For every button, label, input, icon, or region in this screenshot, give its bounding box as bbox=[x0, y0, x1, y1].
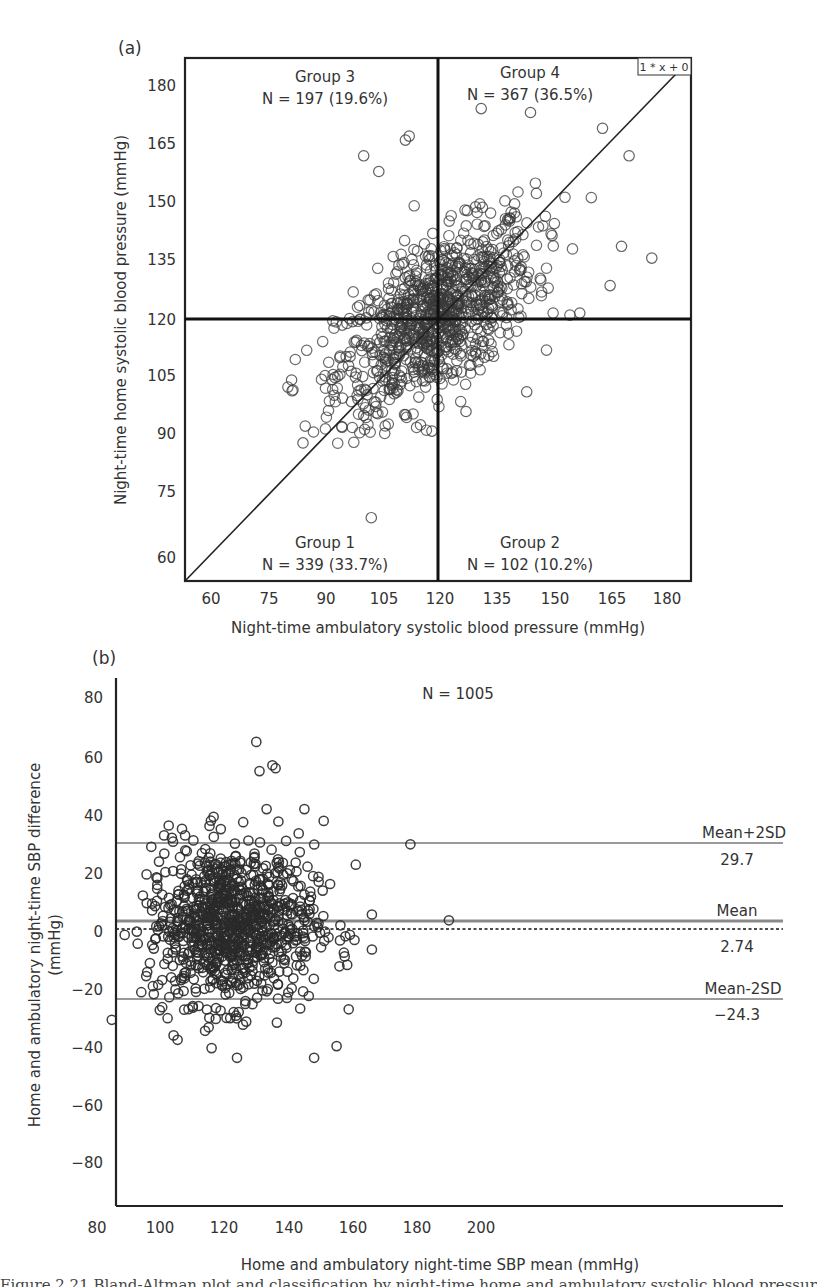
group-2-name: Group 2 bbox=[500, 534, 560, 552]
y-tick: 75 bbox=[157, 483, 176, 501]
data-point bbox=[605, 280, 615, 290]
data-point bbox=[295, 848, 304, 857]
data-point bbox=[324, 357, 334, 367]
group-3-count: N = 197 (19.6%) bbox=[262, 90, 388, 108]
data-point bbox=[142, 870, 151, 879]
data-point bbox=[209, 832, 218, 841]
y-tick: −20 bbox=[71, 981, 103, 999]
group-4-name: Group 4 bbox=[500, 64, 560, 82]
y-axis-label-b-line1: Home and ambulatory night-time SBP diffe… bbox=[26, 763, 44, 1128]
data-point bbox=[351, 860, 360, 869]
data-point bbox=[232, 1053, 241, 1062]
data-point bbox=[309, 872, 318, 881]
data-point bbox=[155, 1006, 164, 1015]
data-point bbox=[205, 821, 214, 830]
data-point bbox=[239, 818, 248, 827]
y-tick: 80 bbox=[84, 689, 103, 707]
x-tick: 90 bbox=[316, 590, 335, 608]
data-point bbox=[409, 244, 419, 254]
data-point bbox=[567, 244, 577, 254]
y-tick: 60 bbox=[157, 549, 176, 567]
data-point bbox=[476, 103, 486, 113]
data-point bbox=[137, 988, 146, 997]
data-point bbox=[253, 993, 262, 1002]
data-point bbox=[164, 821, 173, 830]
data-point bbox=[319, 816, 328, 825]
data-point bbox=[289, 974, 298, 983]
data-point bbox=[414, 392, 424, 402]
data-point bbox=[525, 107, 535, 117]
data-point bbox=[366, 513, 376, 523]
x-tick: 120 bbox=[210, 1219, 239, 1237]
data-point bbox=[530, 178, 540, 188]
scatter-points-a bbox=[283, 103, 657, 523]
data-point bbox=[310, 840, 319, 849]
x-tick: 160 bbox=[339, 1219, 368, 1237]
data-point bbox=[513, 187, 523, 197]
data-point bbox=[138, 891, 147, 900]
lower-limit-name: Mean-2SD bbox=[705, 980, 782, 998]
mean-value: 2.74 bbox=[720, 938, 753, 956]
identity-line bbox=[185, 74, 676, 581]
data-point bbox=[504, 340, 514, 350]
data-point bbox=[133, 939, 142, 948]
data-point bbox=[419, 239, 429, 249]
data-point bbox=[323, 405, 333, 415]
data-point bbox=[205, 1013, 214, 1022]
scatter-points-b bbox=[107, 737, 453, 1062]
data-point bbox=[318, 336, 328, 346]
data-point bbox=[409, 201, 419, 211]
data-point bbox=[294, 829, 303, 838]
data-point bbox=[308, 427, 318, 437]
upper-limit-name: Mean+2SD bbox=[702, 824, 786, 842]
data-point bbox=[359, 151, 369, 161]
y-tick: −60 bbox=[71, 1097, 103, 1115]
data-point bbox=[272, 1018, 281, 1027]
y-tick: 20 bbox=[84, 865, 103, 883]
y-tick: 120 bbox=[147, 311, 176, 329]
x-axis-ticks-b: 80 100 120 140 160 180 200 bbox=[87, 1219, 495, 1237]
y-tick: 40 bbox=[84, 807, 103, 825]
data-point bbox=[373, 263, 383, 273]
y-axis-label-b-line2: (mmHg) bbox=[46, 914, 64, 976]
data-point bbox=[597, 123, 607, 133]
data-point bbox=[460, 379, 470, 389]
x-tick: 135 bbox=[483, 590, 512, 608]
data-point bbox=[586, 192, 596, 202]
data-point bbox=[531, 240, 541, 250]
data-point bbox=[647, 253, 657, 263]
data-point bbox=[160, 849, 169, 858]
data-point bbox=[522, 387, 532, 397]
y-tick: 180 bbox=[147, 77, 176, 95]
panel-b: (b) N = 1005 Mean+2SD 29.7 Mean 2.74 Mea… bbox=[26, 648, 786, 1274]
group-4-count: N = 367 (36.5%) bbox=[467, 86, 593, 104]
data-point bbox=[163, 1014, 172, 1023]
data-point bbox=[347, 422, 357, 432]
x-tick: 180 bbox=[653, 590, 682, 608]
data-point bbox=[367, 910, 376, 919]
y-tick: 90 bbox=[157, 425, 176, 443]
data-point bbox=[548, 308, 558, 318]
x-tick: 120 bbox=[426, 590, 455, 608]
group-1-name: Group 1 bbox=[295, 534, 355, 552]
data-point bbox=[333, 438, 343, 448]
data-point bbox=[560, 192, 570, 202]
data-point bbox=[541, 345, 551, 355]
y-axis-label-a: Night-time home systolic blood pressure … bbox=[112, 135, 130, 505]
y-axis-ticks-a: 180 165 150 135 120 105 90 75 60 bbox=[147, 77, 176, 567]
data-point bbox=[302, 345, 312, 355]
x-tick: 60 bbox=[201, 590, 220, 608]
group-3-name: Group 3 bbox=[295, 68, 355, 86]
data-point bbox=[318, 886, 327, 895]
x-axis-label-b: Home and ambulatory night-time SBP mean … bbox=[241, 1256, 639, 1274]
data-point bbox=[267, 845, 276, 854]
figure-caption: Figure 2.21 Bland-Altman plot and classi… bbox=[0, 1276, 817, 1287]
data-point bbox=[309, 974, 318, 983]
data-point bbox=[444, 231, 454, 241]
panel-a: (a) 1 * x + 0 Group 3 N = 197 (19.6%) Gr… bbox=[112, 38, 691, 637]
data-point bbox=[367, 945, 376, 954]
data-point bbox=[517, 288, 527, 298]
data-point bbox=[194, 1001, 203, 1010]
data-point bbox=[321, 412, 331, 422]
data-point bbox=[255, 767, 264, 776]
